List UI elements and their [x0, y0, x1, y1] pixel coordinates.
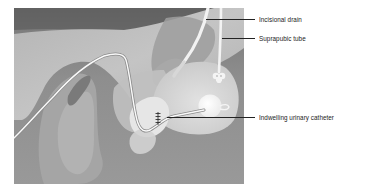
label-suprapubic-tube: Suprapubic tube: [259, 35, 306, 42]
suprapubic-tube-leader: [222, 38, 255, 39]
pelvis-cross-section-drawing: [14, 8, 244, 184]
incisional-drain-leader: [206, 19, 255, 20]
catheter-balloon: [199, 95, 222, 118]
label-indwelling-urinary-catheter: Indwelling urinary catheter: [259, 114, 334, 121]
label-incisional-drain: Incisional drain: [259, 16, 302, 23]
anatomical-illustration: [14, 8, 244, 184]
catheter-leader: [167, 117, 255, 118]
